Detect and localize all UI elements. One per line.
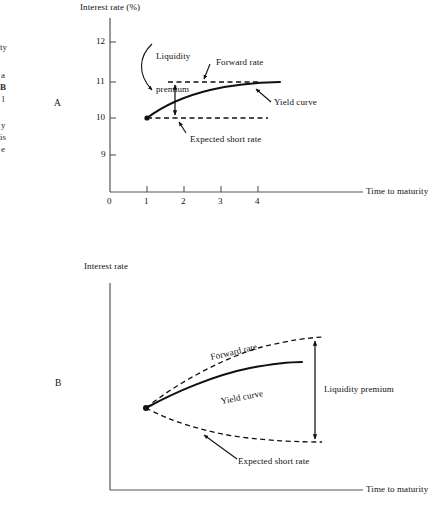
panel-a-xtick-label-0: 0 (107, 196, 112, 207)
panel-a-ytick-label-12: 12 (96, 36, 105, 47)
panel-a-xtick-label-4: 4 (255, 196, 260, 207)
panel-b-expected-short-rate-label: Expected short rate (238, 456, 309, 467)
panel-b-expected-short-rate-leader (204, 435, 237, 459)
panel-a-origin-point (144, 115, 149, 120)
panel-a-ytick-label-9: 9 (101, 149, 106, 160)
panel-b-label: B (55, 378, 61, 389)
panel-a-ytick-label-10: 10 (96, 112, 105, 123)
panel-a-yield-curve-leader (256, 89, 271, 102)
panel-a-liquidity-premium-line2: premium (156, 84, 190, 95)
panel-a-liquidity-premium-leader (141, 44, 152, 90)
panel-a-xtick-label-1: 1 (144, 196, 149, 207)
panel-a-xtick-label-3: 3 (218, 196, 223, 207)
panel-a-xtick-label-2: 2 (181, 196, 186, 207)
panel-a-expected-short-rate-leader (179, 122, 186, 133)
panel-a-ytick-label-11: 11 (96, 76, 105, 87)
panel-b-liquidity-premium-label: Liquidity premium (324, 384, 394, 395)
panel-a-x-axis-label: Time to maturity (366, 186, 428, 197)
margin-text-line-7: e (1, 144, 5, 154)
figure-drawing (0, 0, 447, 508)
figure-root: Interest rate (%) Time to maturity A 12 … (0, 0, 447, 508)
margin-text-line-6: is (0, 132, 6, 142)
panel-a-forward-rate-label: Forward rate (216, 57, 263, 68)
margin-text-line-1: ty (0, 42, 7, 52)
panel-a-forward-rate-leader (204, 64, 210, 79)
margin-text-line-2: a (1, 70, 5, 80)
panel-a-liquidity-premium-line1: Liquidity (156, 51, 190, 62)
panel-b-expected-short-rate-curve (146, 408, 322, 442)
margin-text-line-4: l (2, 94, 5, 104)
panel-b-origin-point (143, 405, 149, 411)
panel-a-label: A (54, 98, 61, 109)
panel-a-yield-curve-label: Yield curve (274, 97, 317, 108)
panel-b-x-axis-label: Time to maturity (366, 484, 428, 495)
margin-text-line-5: y (1, 120, 6, 130)
panel-b-y-axis-label: Interest rate (84, 261, 128, 272)
panel-a-liquidity-premium-label: Liquidity premium (156, 29, 190, 117)
margin-text-line-3: B (0, 82, 6, 92)
panel-a-y-axis-label: Interest rate (%) (80, 2, 140, 13)
panel-a-expected-short-rate-label: Expected short rate (190, 134, 261, 145)
